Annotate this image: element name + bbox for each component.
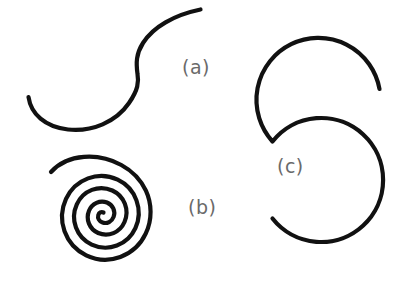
- panel-label-c: (c): [277, 155, 304, 177]
- figure-canvas: (a) (b) (c): [0, 0, 419, 284]
- figure-container: (a) (b) (c): [0, 0, 419, 284]
- panel-label-a: (a): [182, 56, 210, 78]
- panel-label-b: (b): [188, 196, 216, 218]
- figure-background: [0, 0, 419, 284]
